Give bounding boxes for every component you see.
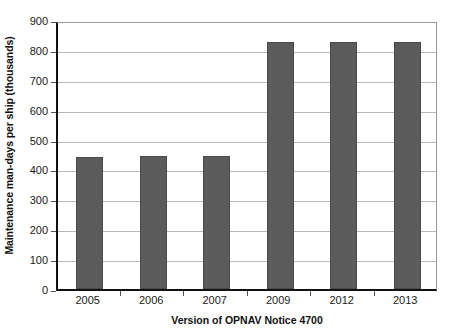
bar [330,42,357,289]
y-axis-tick-label: 400 [4,165,48,176]
x-axis-tick-label: 2013 [375,294,435,306]
bar [76,157,103,289]
bar [140,156,167,289]
x-axis-tick-mark [374,291,375,296]
y-axis-tick-label: 900 [4,16,48,27]
y-axis-tick-label: 200 [4,225,48,236]
gridline [58,82,436,83]
x-axis-title: Version of OPNAV Notice 4700 [56,314,438,326]
gridline [58,171,436,172]
x-axis-tick-label: 2006 [121,294,181,306]
gridline [58,112,436,113]
bar [267,42,294,289]
y-axis-tick-label: 700 [4,76,48,87]
y-axis-tick-label: 600 [4,106,48,117]
y-axis-tick-label: 800 [4,46,48,57]
x-axis-tick-label: 2009 [248,294,308,306]
y-axis-tick-mark [51,291,56,292]
bar [203,156,230,289]
x-axis-tick-label: 2012 [312,294,372,306]
y-axis-tick-label: 100 [4,255,48,266]
x-axis-tick-mark [183,291,184,296]
y-axis-tick-label: 0 [4,285,48,296]
x-axis-tick-mark [247,291,248,296]
x-axis-tick-label: 2007 [185,294,245,306]
chart-figure: Maintenance man-days per ship (thousands… [0,0,450,336]
bar [394,42,421,289]
gridline [58,261,436,262]
x-axis-tick-label: 2005 [58,294,118,306]
y-axis-tick-label: 500 [4,136,48,147]
gridline [58,231,436,232]
gridline [58,52,436,53]
plot-area [56,22,437,291]
gridline [58,142,436,143]
x-axis-tick-mark [310,291,311,296]
y-axis-tick-label: 300 [4,195,48,206]
gridline [58,201,436,202]
x-axis-tick-mark [120,291,121,296]
